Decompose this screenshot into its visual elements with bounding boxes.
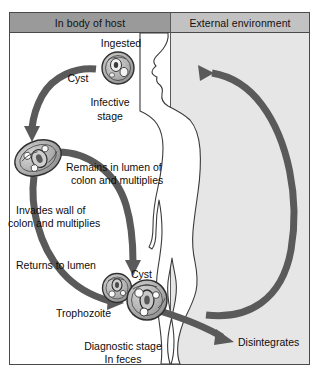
label-cyst-top: Cyst [62,72,94,85]
label-invades-wall-line2: colon and multiplies [8,217,100,230]
diagram-outer-frame [9,12,310,365]
label-infective-stage-line2: stage [82,110,138,123]
parasite-life-cycle-diagram: In body of host External environment [0,0,320,375]
label-disintegrates: Disintegrates [238,336,299,349]
label-ingested: Ingested [93,37,149,50]
label-remains-in-lumen-line2: colon and multiplies [71,174,163,187]
label-cyst-bottom: Cyst [131,268,152,281]
label-infective-stage-line1: Infective [82,96,138,109]
label-diagnostic-stage-line1: Diagnostic stage [78,340,168,353]
label-remains-in-lumen-line1: Remains in lumen of [66,161,162,174]
label-invades-wall-line1: Invades wall of [16,204,85,217]
label-trophozoite: Trophozoite [56,307,111,320]
label-returns-to-lumen: Returns to lumen [16,259,96,272]
label-diagnostic-stage-line2: In feces [78,353,168,366]
